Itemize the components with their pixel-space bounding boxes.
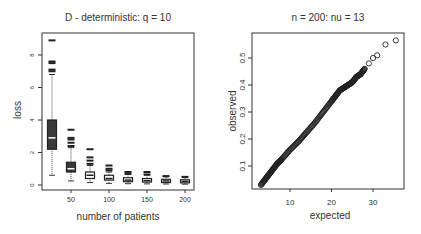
iqr-box xyxy=(67,162,76,172)
x-tick-label: 50 xyxy=(67,196,75,203)
left-x-axis: 50100150200 xyxy=(67,190,191,203)
x-tick-label: 200 xyxy=(179,196,191,203)
y-tick-label: 6 xyxy=(29,85,35,89)
outlier xyxy=(87,160,94,162)
qq-point xyxy=(375,53,380,58)
qq-panel: n = 200: nu = 13 0.10.20.30.40.5 102030 … xyxy=(227,12,404,221)
box xyxy=(124,171,133,184)
x-tick-label: 150 xyxy=(141,196,153,203)
left-y-axis: 02468 xyxy=(29,53,42,187)
y-tick-label: 8 xyxy=(29,53,35,57)
outlier xyxy=(106,168,113,170)
figure: D - deterministic: q = 10 02468 50100150… xyxy=(0,0,421,234)
x-tick-label: 30 xyxy=(369,198,378,207)
iqr-box xyxy=(48,120,57,149)
left-title: D - deterministic: q = 10 xyxy=(65,12,171,23)
right-title: n = 200: nu = 13 xyxy=(292,12,365,23)
right-ylabel: observed xyxy=(227,90,238,131)
left-ylabel: loss xyxy=(12,101,23,119)
outlier xyxy=(182,176,189,178)
outlier xyxy=(68,145,75,147)
box xyxy=(86,148,95,182)
right-y-axis: 0.10.20.30.40.5 xyxy=(238,52,252,172)
x-tick-label: 10 xyxy=(286,198,295,207)
qq-point xyxy=(393,38,398,43)
y-tick-label: 0.3 xyxy=(238,106,247,118)
box xyxy=(48,39,57,175)
qq-point xyxy=(366,61,371,66)
y-tick-label: 0.5 xyxy=(238,52,247,64)
outlier xyxy=(49,39,56,41)
outlier xyxy=(87,156,94,158)
outlier xyxy=(49,69,56,71)
y-tick-label: 0.4 xyxy=(238,79,247,91)
outlier xyxy=(68,129,75,131)
box xyxy=(105,165,114,184)
qq-point xyxy=(383,42,388,47)
box xyxy=(181,176,190,184)
outlier xyxy=(49,61,56,63)
outlier xyxy=(87,163,94,165)
y-tick-label: 2 xyxy=(29,150,35,154)
outlier xyxy=(68,137,75,139)
outlier xyxy=(125,171,132,173)
x-tick-label: 100 xyxy=(103,196,115,203)
outlier xyxy=(163,175,170,177)
y-tick-label: 0 xyxy=(29,183,35,187)
outlier xyxy=(144,173,151,175)
x-tick-label: 20 xyxy=(327,198,336,207)
y-tick-label: 0.1 xyxy=(238,160,247,172)
outlier xyxy=(87,148,94,150)
iqr-box xyxy=(105,175,114,180)
y-tick-label: 4 xyxy=(29,118,35,122)
box xyxy=(143,171,152,184)
outlier xyxy=(106,165,113,167)
boxplot-panel: D - deterministic: q = 10 02468 50100150… xyxy=(12,12,194,222)
right-xlabel: expected xyxy=(310,210,351,221)
outlier xyxy=(144,171,151,173)
qq-points xyxy=(258,38,398,188)
left-xlabel: number of patients xyxy=(77,211,160,222)
box xyxy=(162,175,171,184)
left-plot-frame xyxy=(42,33,194,190)
boxplots xyxy=(48,39,190,184)
right-x-axis: 102030 xyxy=(286,189,378,207)
outlier xyxy=(68,142,75,144)
box xyxy=(67,129,76,181)
y-tick-label: 0.2 xyxy=(238,133,247,145)
